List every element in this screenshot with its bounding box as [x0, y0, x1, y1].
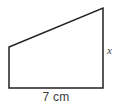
trapezoid-outline [9, 8, 103, 88]
geometry-figure: 7 cm x [0, 0, 136, 111]
height-variable-label: x [107, 45, 112, 56]
base-length-label: 7 cm [0, 91, 112, 103]
